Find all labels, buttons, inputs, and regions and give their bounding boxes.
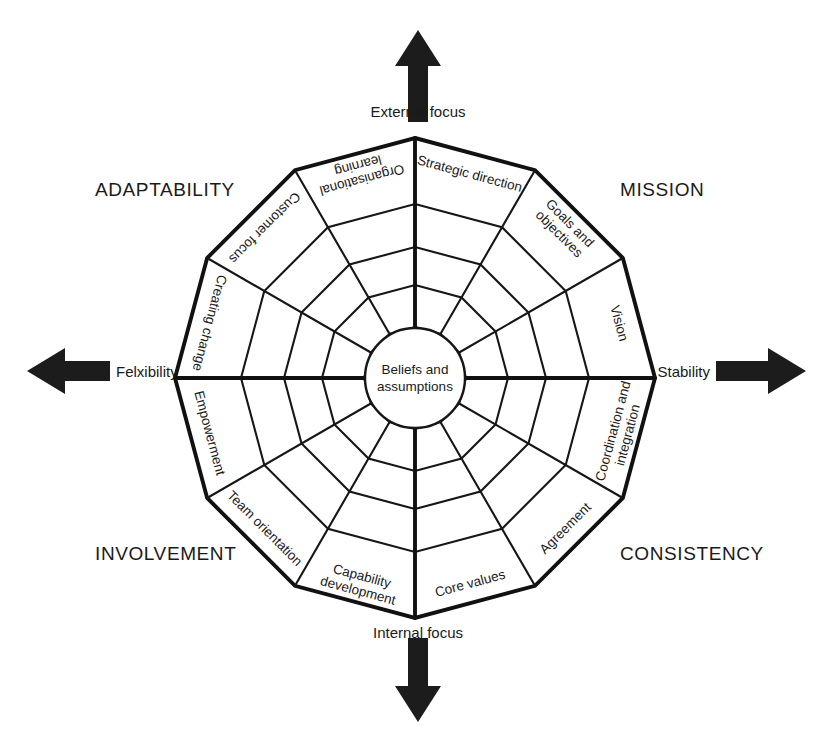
radar-spoke-7 xyxy=(295,421,390,586)
axis-label-flexibility: Felxibility xyxy=(116,363,178,380)
diagram-canvas: Strategic directionGoals andobjectivesVi… xyxy=(0,0,831,744)
radar-spoke-5 xyxy=(440,421,535,586)
axis-label-stability: Stability xyxy=(657,363,710,380)
trait-label-adaptability-9: Creating change xyxy=(190,273,230,373)
quadrant-label-mission: MISSION xyxy=(620,179,704,200)
arrow-left-icon xyxy=(27,348,110,394)
radar-spoke-2 xyxy=(458,258,623,353)
quadrant-label-involvement: INVOLVEMENT xyxy=(95,543,236,564)
trait-label-involvement-6: Capabilitydevelopment xyxy=(319,559,402,608)
center-hub-label-line1: Beliefs and xyxy=(382,362,449,377)
arrow-right-icon xyxy=(716,348,806,394)
radar-spoke-1 xyxy=(440,170,535,335)
radar-spoke-8 xyxy=(207,403,372,498)
culture-model-figure: Strategic directionGoals andobjectivesVi… xyxy=(0,0,831,744)
center-hub xyxy=(365,328,465,428)
trait-label-line: Vision xyxy=(607,304,631,343)
trait-label-mission-2: Vision xyxy=(607,304,631,343)
arrow-down-icon xyxy=(395,638,441,722)
radar-spoke-10 xyxy=(207,258,372,353)
center-hub-label-line2: assumptions xyxy=(377,379,453,394)
quadrant-label-consistency: CONSISTENCY xyxy=(620,543,764,564)
radar-spoke-4 xyxy=(458,403,623,498)
radar-spoke-11 xyxy=(295,170,390,335)
trait-label-line: Strategic direction xyxy=(416,152,524,194)
trait-label-line: Agreement xyxy=(537,499,594,556)
trait-label-consistency-4: Agreement xyxy=(537,499,594,556)
axis-label-external-focus: External focus xyxy=(370,103,465,120)
quadrant-label-adaptability: ADAPTABILITY xyxy=(95,179,235,200)
trait-label-line: Creating change xyxy=(190,273,230,373)
axis-label-internal-focus: Internal focus xyxy=(373,624,463,641)
trait-label-mission-1: Goals andobjectives xyxy=(532,196,597,261)
trait-label-mission-0: Strategic direction xyxy=(416,152,524,194)
